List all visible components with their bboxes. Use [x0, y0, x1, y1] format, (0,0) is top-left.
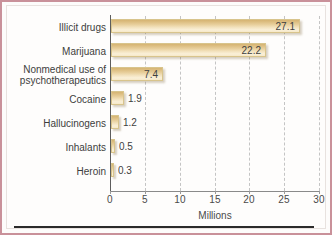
category-label-cocaine: Cocaine [8, 94, 106, 105]
plot-area: 0 5 10 15 20 25 30 Millions Illicit drug… [2, 2, 332, 235]
tick-label-20: 20 [234, 194, 264, 205]
category-label-inhalants: Inhalants [8, 142, 106, 153]
tick-label-5: 5 [130, 194, 160, 205]
category-label-hallucinogens: Hallucinogens [8, 118, 106, 129]
tick-label-30: 30 [304, 194, 332, 205]
bar-marijuana[interactable]: 22.2 [111, 43, 266, 57]
bar-value-marijuana: 22.2 [242, 45, 261, 57]
category-label-heroin: Heroin [8, 166, 106, 177]
bar-heroin[interactable]: 0.3 [111, 163, 114, 177]
gridline-25 [284, 16, 285, 191]
chart-figure: 0 5 10 15 20 25 30 Millions Illicit drug… [0, 0, 332, 235]
category-label-nonmedical-line1: Nonmedical use of [8, 64, 106, 75]
bar-value-cocaine: 1.9 [128, 93, 142, 105]
bar-hallucinogens[interactable]: 1.2 [111, 115, 119, 129]
category-label-illicit-drugs: Illicit drugs [8, 22, 106, 33]
bar-value-heroin: 0.3 [118, 165, 132, 177]
bar-value-hallucinogens: 1.2 [123, 117, 137, 129]
tick-label-0: 0 [95, 194, 125, 205]
bar-value-nonmedical: 7.4 [144, 69, 158, 81]
tick-label-25: 25 [269, 194, 299, 205]
bar-cocaine[interactable]: 1.9 [111, 91, 124, 105]
gridline-30 [319, 16, 320, 191]
bar-value-illicit-drugs: 27.1 [276, 21, 295, 33]
tick-label-10: 10 [165, 194, 195, 205]
bar-inhalants[interactable]: 0.5 [111, 139, 115, 153]
x-axis-title: Millions [110, 210, 320, 221]
bar-nonmedical-psychotherapeutics[interactable]: 7.4 [111, 67, 163, 81]
bottom-rule [14, 226, 314, 228]
category-label-marijuana: Marijuana [8, 46, 106, 57]
bar-value-inhalants: 0.5 [119, 141, 133, 153]
bar-illicit-drugs[interactable]: 27.1 [111, 19, 300, 33]
tick-label-15: 15 [200, 194, 230, 205]
category-label-nonmedical-line2: psychotherapeutics [8, 75, 106, 86]
